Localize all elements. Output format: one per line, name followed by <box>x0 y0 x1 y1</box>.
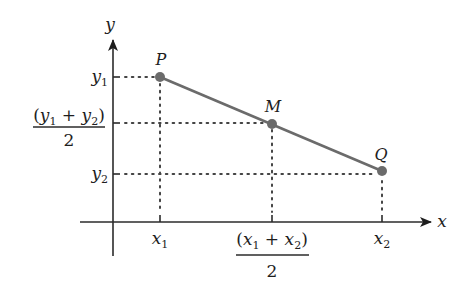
point-q <box>377 166 387 176</box>
x-axis-label: x <box>437 211 447 231</box>
midpoint-diagram: x y P M Q y1 (y1 + y2) 2 y2 x1 (x1 <box>0 0 471 291</box>
x-midpoint-fraction: (x1 + x2) 2 <box>236 229 309 281</box>
x-midpoint-numerator: (x1 + x2) <box>236 229 308 252</box>
x2-label: x2 <box>374 228 391 251</box>
y2-label: y2 <box>90 163 108 186</box>
point-p-label: P <box>155 50 167 69</box>
point-m-label: M <box>264 97 282 116</box>
y-midpoint-denominator: 2 <box>64 130 75 150</box>
y-axis-label: y <box>104 14 115 34</box>
point-m <box>267 119 277 129</box>
point-p <box>155 72 165 82</box>
y-midpoint-fraction: (y1 + y2) 2 <box>33 105 105 150</box>
point-q-label: Q <box>374 145 387 164</box>
x1-label: x1 <box>152 228 169 251</box>
y1-label: y1 <box>90 66 108 89</box>
y-midpoint-numerator: (y1 + y2) <box>33 105 105 128</box>
x-midpoint-denominator: 2 <box>267 261 278 281</box>
